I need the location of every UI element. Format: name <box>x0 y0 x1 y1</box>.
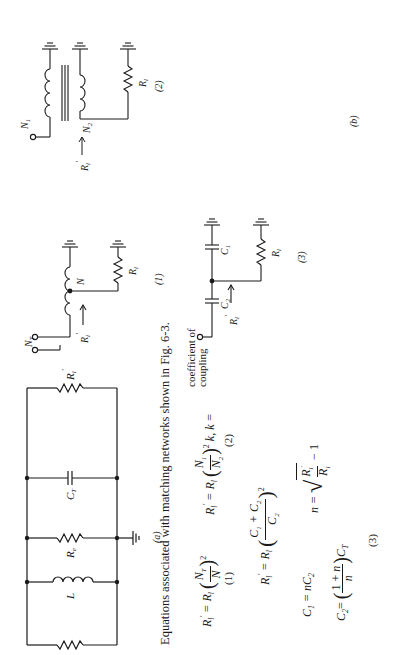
equation-3-c2: C2= (1 + nn)CT <box>330 545 354 621</box>
coupling-note: coefficient of coupling <box>186 328 208 387</box>
label-circuit-2-number: (2) <box>153 80 165 92</box>
circuit-1-diagram: NT N Rl Rl′ (1) <box>0 185 170 345</box>
equation-2-number: (2) <box>222 434 234 447</box>
equation-3-line1: Rl′ = Rl (C1 + C2C2)2 <box>248 487 284 585</box>
equation-2: Rl′ = Rl (N1N2)2 k, k = <box>194 413 228 515</box>
equation-1: Rl′ = Rl (NTN)2 <box>194 556 222 627</box>
rotated-page: Ro L Re CT Rl′ (a) <box>0 0 395 655</box>
label-circuit-1-number: (1) <box>153 273 165 285</box>
circuit-3-diagram: C2 C1 Rl Rl′ (3) <box>188 175 338 345</box>
panel-b-label: (b) <box>348 115 359 127</box>
equation-1-number: (1) <box>222 572 234 585</box>
circuit-2-diagram: N1 N2 Rl Rl′ (2) <box>0 0 170 147</box>
label-circuit-3-number: (3) <box>296 251 308 263</box>
label-rl-prime: Rl′ <box>60 368 78 381</box>
label-ct: CT <box>64 488 78 500</box>
coupling-note-line2: coupling <box>197 328 208 387</box>
label-re: Re <box>64 548 78 559</box>
equations-caption: Equations associated with matching netwo… <box>158 322 173 645</box>
label-n: N <box>75 277 86 286</box>
equation-3-c1: C1 = nC2 <box>300 573 316 617</box>
equation-3-number: (3) <box>366 534 378 547</box>
label-l: L <box>64 593 76 600</box>
equation-3-n: n = √Rl′Rl − 1 <box>296 444 335 513</box>
